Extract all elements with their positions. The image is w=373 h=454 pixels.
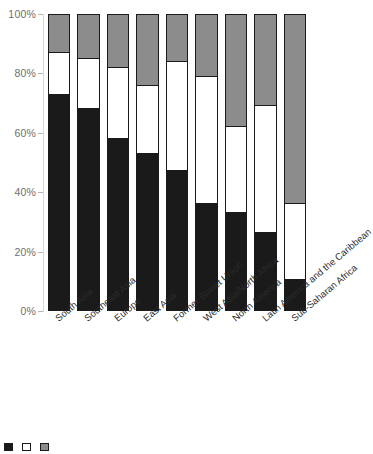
stacked-bar[interactable] bbox=[48, 14, 70, 311]
legend-swatch bbox=[4, 443, 13, 451]
stacked-bar[interactable] bbox=[107, 14, 129, 311]
legend-item bbox=[40, 443, 52, 451]
bar-segment-high[interactable] bbox=[255, 15, 275, 106]
x-axis-labels: South AsiaSoutheast AsiaEuropeEast AsiaF… bbox=[0, 311, 312, 431]
stacked-bar[interactable] bbox=[166, 14, 188, 311]
bar-segment-medium[interactable] bbox=[196, 77, 216, 204]
bar-segment-medium[interactable] bbox=[137, 86, 157, 154]
bar-segment-medium[interactable] bbox=[285, 204, 305, 281]
legend-item bbox=[4, 443, 16, 451]
stacked-bar[interactable] bbox=[284, 14, 306, 311]
bar-segment-high[interactable] bbox=[49, 15, 69, 53]
legend-swatch bbox=[22, 443, 31, 451]
y-axis-tick-label: 80% bbox=[14, 67, 36, 79]
legend-item bbox=[22, 443, 34, 451]
bar-segment-low[interactable] bbox=[49, 95, 69, 310]
bar-column[interactable] bbox=[136, 14, 158, 311]
bar-segment-low[interactable] bbox=[137, 154, 157, 310]
bar-segment-high[interactable] bbox=[137, 15, 157, 86]
bar-segment-medium[interactable] bbox=[49, 53, 69, 94]
bar-segment-high[interactable] bbox=[226, 15, 246, 127]
bar-segment-high[interactable] bbox=[285, 15, 305, 204]
bar-segment-medium[interactable] bbox=[78, 59, 98, 109]
y-axis: 0%20%40%60%80%100% bbox=[0, 0, 44, 325]
bar-column[interactable] bbox=[107, 14, 129, 311]
y-axis-tick-label: 40% bbox=[14, 186, 36, 198]
y-axis-tick-label: 20% bbox=[14, 246, 36, 258]
bar-segment-medium[interactable] bbox=[226, 127, 246, 213]
bar-segment-low[interactable] bbox=[78, 109, 98, 310]
bar-column[interactable] bbox=[48, 14, 70, 311]
bar-column[interactable] bbox=[166, 14, 188, 311]
y-axis-tick-label: 60% bbox=[14, 127, 36, 139]
stacked-bar[interactable] bbox=[195, 14, 217, 311]
bar-segment-medium[interactable] bbox=[255, 106, 275, 233]
bar-segment-high[interactable] bbox=[78, 15, 98, 59]
bar-column[interactable] bbox=[284, 14, 306, 311]
stacked-bar[interactable] bbox=[136, 14, 158, 311]
bar-column[interactable] bbox=[195, 14, 217, 311]
bar-column[interactable] bbox=[77, 14, 99, 311]
y-axis-tick-label: 100% bbox=[8, 8, 36, 20]
bar-segment-high[interactable] bbox=[108, 15, 128, 68]
bar-segment-medium[interactable] bbox=[167, 62, 187, 171]
chart-legend bbox=[4, 440, 312, 454]
bar-segment-high[interactable] bbox=[196, 15, 216, 77]
bar-segment-medium[interactable] bbox=[108, 68, 128, 139]
bar-segment-high[interactable] bbox=[167, 15, 187, 62]
stacked-bar[interactable] bbox=[77, 14, 99, 311]
legend-swatch bbox=[40, 443, 49, 451]
